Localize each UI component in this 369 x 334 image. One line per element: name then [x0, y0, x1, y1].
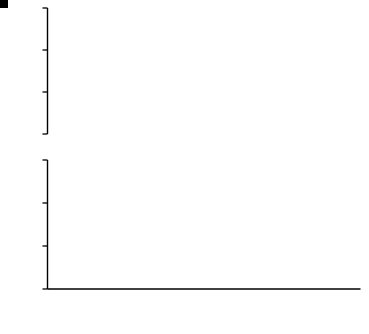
top-y-ticks	[43, 8, 48, 134]
chart-figure	[0, 0, 369, 334]
bottom-y-ticks	[43, 160, 48, 289]
chart-canvas	[0, 0, 369, 334]
self-employed-end-marker	[0, 0, 8, 8]
bottom-panel	[0, 0, 361, 289]
top-panel	[0, 0, 48, 134]
